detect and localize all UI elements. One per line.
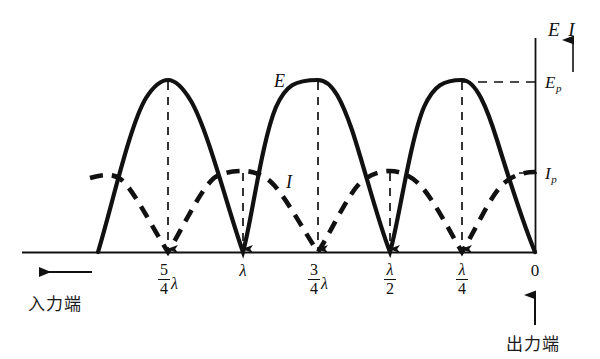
fraction-numerator: λ	[456, 262, 468, 279]
x-tick-t-zero: 0	[531, 262, 540, 279]
ep-label: Ep	[545, 74, 561, 94]
tick-lambda: λ	[171, 276, 178, 292]
fraction-denominator: 4	[308, 279, 320, 297]
y-axis-title: E I	[548, 20, 577, 39]
tick-fraction: λ4	[456, 262, 468, 297]
curve-label-i: I	[286, 173, 292, 191]
curve-label-e: E	[274, 72, 285, 90]
fraction-denominator: 4	[456, 279, 468, 297]
x-tick-t-5-4-lambda: 54λ	[158, 262, 178, 297]
plot-canvas	[0, 0, 600, 359]
x-tick-t-3-4-lambda: 34λ	[308, 262, 328, 297]
fraction-numerator: λ	[384, 262, 396, 279]
input-end-label: 入力端	[28, 290, 82, 315]
tick-text: λ	[239, 262, 246, 279]
x-tick-t-lambda-4: λ4	[456, 262, 468, 297]
tick-fraction: 54	[158, 262, 170, 297]
tick-lambda: λ	[321, 276, 328, 292]
x-tick-t-lambda-2: λ2	[384, 262, 396, 297]
fraction-numerator: 3	[308, 262, 320, 279]
tick-fraction: λ2	[384, 262, 396, 297]
fraction-denominator: 4	[158, 279, 170, 297]
fraction-denominator: 2	[384, 279, 396, 297]
tick-text: 0	[531, 262, 540, 279]
ip-label: Ip	[545, 165, 557, 185]
fraction-numerator: 5	[158, 262, 170, 279]
standing-wave-figure: E I Ep Ip E I 54λλ34λλ2λ40 入力端 出力端	[0, 0, 600, 359]
output-end-label: 出力端	[506, 330, 560, 355]
x-tick-t-lambda: λ	[239, 262, 246, 279]
curve-e-solid	[98, 80, 535, 252]
tick-fraction: 34	[308, 262, 320, 297]
curve-i-dashed	[90, 171, 535, 252]
